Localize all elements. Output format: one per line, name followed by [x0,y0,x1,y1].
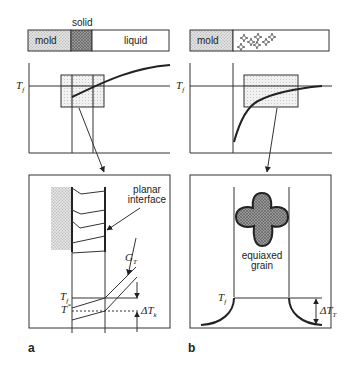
panel-a [28,30,170,333]
mold-label-b: mold [197,36,219,46]
tstar-label: T* [61,303,71,315]
temperature-graph-b [190,63,332,172]
tf-label-detail-b: Tf [218,292,226,306]
mold-label-a: mold [35,36,57,46]
temperature-graph-a [29,63,170,172]
equiaxed-grain-label: equiaxedgrain [237,251,287,271]
planar-interface-label: planarinterface [122,185,172,205]
tf-label-graph-a: Tf [16,80,24,94]
liquid-label: liquid [124,36,147,46]
zoom-arrow-a [79,108,104,172]
delta-tk-label: ΔTk [141,305,157,319]
delta-tt-label: ΔTT [320,305,336,319]
panel-label-b: b [188,341,195,355]
solid-label: solid [72,18,93,28]
tf-label-graph-b: Tf [176,80,184,94]
gt-label: GT [125,252,137,266]
panel-label-a: a [28,341,35,355]
panel-b [190,30,332,328]
solidification-diagram [0,0,357,378]
zoom-arrow-b [267,108,277,172]
